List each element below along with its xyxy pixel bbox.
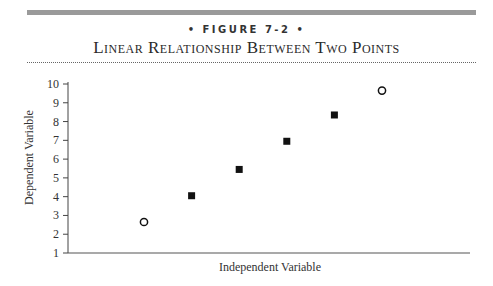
y-tick-label: 7 [53, 133, 59, 147]
filled-square-marker [236, 166, 243, 173]
y-tick-label: 9 [53, 96, 59, 110]
y-tick-label: 3 [53, 208, 59, 222]
y-tick-label: 4 [53, 190, 59, 204]
y-tick-label: 1 [53, 246, 59, 260]
open-circle-marker [140, 218, 147, 225]
filled-square-marker [331, 111, 338, 118]
y-tick-label: 6 [53, 152, 59, 166]
y-tick-label: 5 [53, 171, 59, 185]
scatter-plot: 12345678910 [0, 0, 493, 286]
y-tick-label: 2 [53, 227, 59, 241]
filled-square-marker [188, 192, 195, 199]
filled-square-marker [283, 138, 290, 145]
y-tick-label: 8 [53, 115, 59, 129]
x-axis-label: Independent Variable [160, 260, 380, 275]
open-circle-marker [378, 87, 385, 94]
y-tick-label: 10 [47, 77, 59, 91]
y-axis-label: Dependent Variable [22, 103, 37, 213]
